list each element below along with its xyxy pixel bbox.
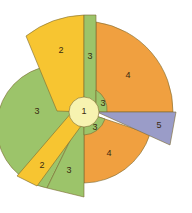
label-top-green-strip: 3 bbox=[87, 51, 92, 61]
label-top-left-yellow: 2 bbox=[58, 45, 63, 55]
segment-upper-orange bbox=[96, 22, 173, 112]
label-bottom-left-yellow: 2 bbox=[39, 160, 44, 170]
label-inner-green-lower: 3 bbox=[92, 122, 97, 132]
label-purple-wedge: 5 bbox=[156, 120, 161, 130]
label-inner-green-upper: 3 bbox=[100, 98, 105, 108]
label-lower-orange: 4 bbox=[106, 148, 111, 158]
label-upper-orange: 4 bbox=[125, 70, 130, 80]
label-left-green: 3 bbox=[34, 106, 39, 116]
sunburst-diagram: 1 2 2 3 3 3 3 3 4 4 5 bbox=[0, 0, 192, 213]
label-bottom-green: 3 bbox=[66, 165, 71, 175]
label-center: 1 bbox=[81, 106, 86, 116]
